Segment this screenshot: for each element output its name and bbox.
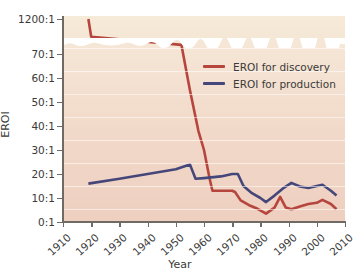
y-tick-mark [57, 126, 62, 127]
legend-label-production: EROI for production [233, 78, 336, 90]
legend-swatch-production [203, 82, 225, 85]
x-tick-label: 2010 [325, 231, 355, 260]
y-tick-mark [57, 102, 62, 103]
x-tick-label: 1940 [127, 231, 157, 260]
x-tick-mark [148, 222, 149, 227]
y-axis-line [62, 16, 64, 222]
x-tick-mark [232, 222, 233, 227]
x-tick-label: 1920 [71, 231, 101, 260]
y-tick-label: 0:1 [38, 216, 55, 228]
gridline [63, 94, 345, 95]
x-tick-mark [317, 222, 318, 227]
x-tick-mark [289, 222, 290, 227]
x-tick-mark [91, 222, 92, 227]
y-tick-label: 20:1 [31, 168, 55, 180]
y-tick-mark [57, 174, 62, 175]
x-tick-mark [260, 222, 261, 227]
x-tick-label: 1960 [184, 231, 214, 260]
y-tick-label: 30:1 [31, 144, 55, 156]
x-tick-mark [176, 222, 177, 227]
x-tick-label: 1990 [268, 231, 298, 260]
gridline [63, 209, 345, 210]
y-axis-title: EROI [0, 111, 12, 138]
x-tick-mark [204, 222, 205, 227]
x-tick-label: 1930 [99, 231, 129, 260]
x-tick-mark [345, 222, 346, 227]
legend-label-discovery: EROI for discovery [233, 61, 330, 73]
y-tick-label: 50:1 [31, 96, 55, 108]
gridline [63, 48, 345, 49]
x-tick-label: 1980 [240, 231, 270, 260]
legend-item-production: EROI for production [203, 77, 336, 90]
gridline [63, 117, 345, 118]
y-tick-mark [57, 54, 62, 55]
y-tick-mark [57, 222, 62, 223]
y-tick-mark [57, 198, 62, 199]
y-tick-mark [57, 78, 62, 79]
legend-item-discovery: EROI for discovery [203, 60, 336, 73]
axis-break-squiggle [63, 38, 345, 48]
gridline [63, 140, 345, 141]
x-tick-label: 2000 [297, 231, 327, 260]
y-axis-labels: 0:110:120:130:140:150:160:170:11200:1 [0, 0, 55, 280]
y-tick-mark [57, 150, 62, 151]
x-tick-label: 1970 [212, 231, 242, 260]
series-line-production [88, 164, 336, 202]
x-tick-label: 1950 [156, 231, 186, 260]
y-tick-label: 70:1 [31, 48, 55, 60]
y-tick-label: 1200:1 [18, 13, 55, 25]
y-tick-mark [57, 19, 62, 20]
x-tick-mark [63, 222, 64, 227]
chart-legend: EROI for discovery EROI for production [203, 60, 336, 94]
gridline [63, 186, 345, 187]
x-axis-title: Year [0, 258, 360, 271]
eroi-line-chart: 0:110:120:130:140:150:160:170:11200:1 19… [0, 0, 360, 280]
y-tick-label: 40:1 [31, 120, 55, 132]
y-tick-label: 10:1 [31, 192, 55, 204]
gridline [63, 163, 345, 164]
y-tick-label: 60:1 [31, 72, 55, 84]
x-tick-mark [119, 222, 120, 227]
legend-swatch-discovery [203, 65, 225, 68]
